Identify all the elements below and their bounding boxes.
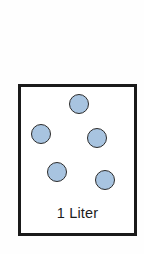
particle-4 [47, 162, 67, 182]
container-volume-label: 1 Liter [21, 206, 134, 221]
particle-2 [31, 124, 51, 144]
liter-container-box: 1 Liter [18, 84, 137, 236]
particle-1 [69, 94, 89, 114]
particle-5 [95, 170, 115, 190]
particle-3 [87, 128, 107, 148]
figure-root: 1 Liter [0, 0, 144, 254]
